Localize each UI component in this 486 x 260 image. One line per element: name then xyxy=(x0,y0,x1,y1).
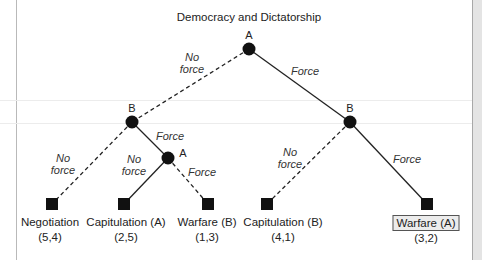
terminal-node-capitulation-b xyxy=(261,198,273,210)
branch-label-root-no-force: No force xyxy=(180,51,204,75)
terminal-node-warfare-a xyxy=(421,198,433,210)
terminal-node-negotiation xyxy=(46,198,58,210)
branch-label-line: No xyxy=(278,146,302,158)
branch-label-line: force xyxy=(51,164,75,176)
node-label-b-left: B xyxy=(128,102,135,114)
branch-label-ainner-force: Force xyxy=(188,166,216,178)
outcome-negotiation: Negotiation (5,4) xyxy=(21,215,79,245)
outcome-payoff: (4,1) xyxy=(243,230,322,245)
decision-node-b-left xyxy=(126,116,139,129)
outcome-warfare-a: Warfare (A) (3,2) xyxy=(393,215,460,246)
outcome-payoff: (5,4) xyxy=(21,230,79,245)
outcome-payoff: (1,3) xyxy=(178,230,237,245)
node-label-root: A xyxy=(245,29,252,41)
outcome-capitulation-b: Capitulation (B) (4,1) xyxy=(243,215,322,245)
outcome-name-highlighted: Warfare (A) xyxy=(393,215,460,231)
outcome-name: Negotiation xyxy=(21,215,79,230)
decision-node-b-right xyxy=(344,116,357,129)
edge-root-force xyxy=(249,49,350,122)
node-label-a-inner: A xyxy=(179,147,186,159)
decision-node-root-a xyxy=(243,43,256,56)
branch-label-bleft-force: Force xyxy=(156,130,184,142)
outcome-payoff: (3,2) xyxy=(393,231,460,246)
outcome-name: Warfare (B) xyxy=(178,215,237,230)
edge-ainner-force xyxy=(168,158,208,204)
branch-label-line: No xyxy=(51,152,75,164)
outcome-warfare-b: Warfare (B) (1,3) xyxy=(178,215,237,245)
branch-label-line: No xyxy=(122,153,146,165)
branch-label-bright-force: Force xyxy=(393,153,421,165)
branch-label-bright-no-force: No force xyxy=(278,146,302,170)
branch-label-line: No xyxy=(180,51,204,63)
branch-label-root-force: Force xyxy=(291,65,319,77)
outcome-payoff: (2,5) xyxy=(86,230,165,245)
terminal-node-capitulation-a xyxy=(118,198,130,210)
branch-label-bleft-no-force: No force xyxy=(51,152,75,176)
node-label-b-right: B xyxy=(346,102,353,114)
decision-node-a-inner xyxy=(162,152,175,165)
outcome-name: Capitulation (B) xyxy=(243,215,322,230)
branch-label-line: force xyxy=(278,158,302,170)
outcome-name: Capitulation (A) xyxy=(86,215,165,230)
outcome-capitulation-a: Capitulation (A) (2,5) xyxy=(86,215,165,245)
branch-label-line: force xyxy=(180,63,204,75)
branch-label-line: force xyxy=(122,165,146,177)
terminal-node-warfare-b xyxy=(202,198,214,210)
branch-label-ainner-no-force: No force xyxy=(122,153,146,177)
